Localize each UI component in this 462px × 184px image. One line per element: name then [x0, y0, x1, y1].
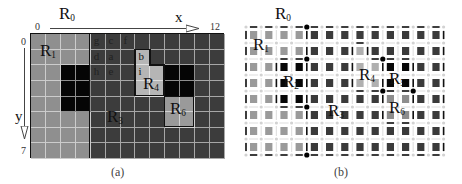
grid-node — [351, 57, 354, 60]
pixel-node — [341, 31, 348, 39]
pixel-node — [311, 47, 318, 55]
y-axis-label: y — [15, 109, 23, 124]
pixel-node — [250, 143, 257, 151]
grid-node — [381, 105, 384, 108]
pixel-node — [356, 31, 363, 39]
pixel-node — [402, 143, 409, 151]
region-label-r6: R6 — [389, 99, 405, 118]
grid-node — [275, 137, 278, 140]
grid-node — [290, 105, 293, 108]
pixel-node — [356, 47, 363, 55]
pixel-node — [250, 111, 257, 119]
grid-node — [305, 73, 308, 76]
grid-node — [351, 105, 354, 108]
pixel-node — [265, 79, 272, 87]
junction-node — [304, 104, 309, 109]
cell-letter: d — [94, 50, 100, 62]
pixel-node — [356, 95, 363, 103]
pixel-node — [417, 143, 424, 151]
x-axis-end: 12 — [210, 22, 220, 32]
grid-node — [412, 41, 415, 44]
grid-node — [275, 73, 278, 76]
grid-node — [396, 137, 399, 140]
junction-node — [380, 88, 385, 93]
grid-node — [275, 121, 278, 124]
grid-node — [336, 57, 339, 60]
pixel-node — [417, 31, 424, 39]
pixel-node — [387, 127, 394, 135]
pixel-node — [372, 95, 379, 103]
pixel-node — [402, 47, 409, 55]
pixel-node — [280, 95, 287, 103]
grid-node — [305, 121, 308, 124]
grid-node — [244, 25, 247, 28]
grid-node — [275, 57, 278, 60]
pixel-node — [402, 127, 409, 135]
pixel-node — [311, 95, 318, 103]
junction-node — [304, 24, 309, 29]
grid-node — [396, 57, 399, 60]
grid-node — [244, 153, 247, 156]
region-border — [163, 64, 165, 95]
pixel-node — [372, 127, 379, 135]
grid-node — [442, 89, 445, 92]
grid-node — [290, 25, 293, 28]
pixel-node — [356, 143, 363, 151]
pixel-node — [250, 95, 257, 103]
grid-node — [320, 57, 323, 60]
grid-node — [336, 89, 339, 92]
grid-node — [366, 153, 369, 156]
pixel-node — [311, 127, 318, 135]
pixel-node — [372, 143, 379, 151]
pixel-node — [432, 47, 439, 55]
pixel-node — [417, 79, 424, 87]
cell-letter: c — [109, 34, 114, 46]
grid-node — [244, 121, 247, 124]
grid-node — [260, 57, 263, 60]
grid-node — [336, 41, 339, 44]
region-label-r6: R6 — [170, 100, 186, 119]
pixel-node — [387, 31, 394, 39]
pixel-node — [402, 31, 409, 39]
pixel-node — [326, 47, 333, 55]
pixel-node — [265, 63, 272, 71]
grid-node — [427, 137, 430, 140]
pixel-node — [280, 47, 287, 55]
grid-node — [244, 137, 247, 140]
pixel-node — [296, 111, 303, 119]
region-border — [89, 33, 91, 158]
panel-a-caption: (a) — [111, 165, 124, 180]
cell-letter: b — [138, 50, 144, 62]
pixel-node — [326, 31, 333, 39]
grid-node — [396, 25, 399, 28]
region-label-r1: R1 — [40, 42, 56, 61]
pixel-node — [432, 143, 439, 151]
grid-node — [427, 89, 430, 92]
pixel-node — [326, 127, 333, 135]
grid-node — [320, 89, 323, 92]
pixel-node — [296, 143, 303, 151]
cell-letter: i — [138, 65, 141, 77]
pixel-node — [280, 63, 287, 71]
grid-node — [275, 41, 278, 44]
cell-letter: f — [124, 34, 128, 46]
grid-node — [396, 89, 399, 92]
grid-node — [427, 105, 430, 108]
pixel-node — [387, 47, 394, 55]
pixel-node — [341, 127, 348, 135]
region-label-r4: R4 — [143, 75, 159, 94]
grid-node — [320, 153, 323, 156]
grid-node — [260, 137, 263, 140]
grid-node — [412, 57, 415, 60]
grid-node — [320, 25, 323, 28]
grid-node — [396, 121, 399, 124]
pixel-node — [341, 79, 348, 87]
grid-node — [442, 73, 445, 76]
grid-node — [427, 73, 430, 76]
grid-node — [260, 25, 263, 28]
grid-node — [290, 121, 293, 124]
panel-a: R0 x 0 12 y 0 7 gcfdabhei R1 R3 R4 R6 (a… — [0, 0, 232, 184]
grid-node — [305, 89, 308, 92]
region-label-r5: R5 — [389, 70, 405, 89]
grid-node — [442, 137, 445, 140]
